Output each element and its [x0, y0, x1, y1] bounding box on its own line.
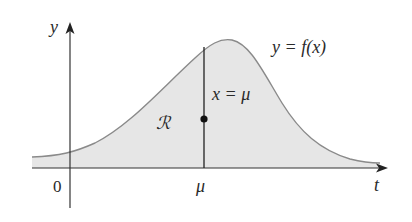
- origin-label: 0: [53, 178, 62, 195]
- line-label: x = μ: [212, 85, 250, 103]
- t-axis-label: t: [374, 176, 379, 194]
- region-fill: [32, 40, 380, 168]
- y-axis-label: y: [50, 18, 58, 36]
- centroid-dot: [200, 115, 207, 122]
- mu-tick-label: μ: [196, 177, 205, 195]
- diagram-canvas: [0, 0, 412, 222]
- region-label: ℛ: [156, 114, 170, 132]
- curve-label: y = f(x): [272, 38, 326, 56]
